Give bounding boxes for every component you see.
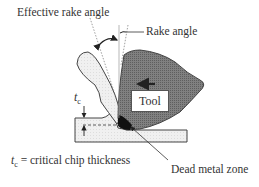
rake-angle-arc: [120, 32, 126, 33]
rake-angle-label: Rake angle: [146, 26, 197, 38]
tc-label: tc: [74, 91, 81, 106]
dead-metal-zone-label: Dead metal zone: [171, 164, 248, 176]
tool-label: Tool: [131, 90, 169, 112]
effective-rake-angle-label: Effective rake angle: [17, 7, 109, 19]
tc-definition: tc = critical chip thickness: [11, 155, 130, 169]
definition-text: = critical chip thickness: [18, 154, 131, 166]
effective-rake-angle-arc: [100, 39, 117, 44]
tc-subscript: c: [77, 97, 81, 106]
cutting-diagram: Effective rake angle Rake angle Tool tc …: [0, 0, 259, 187]
